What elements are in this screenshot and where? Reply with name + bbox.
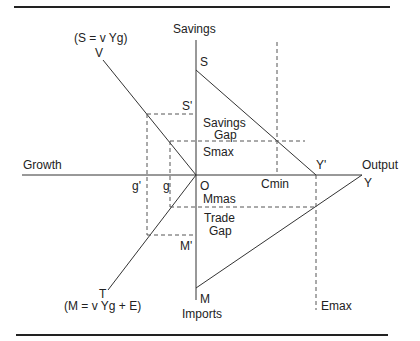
savings-gap-label-line2: Gap xyxy=(214,128,237,142)
point-label-S-prime: S' xyxy=(182,99,192,113)
two-gap-diagram: Savings Imports Growth Output O (S = v Y… xyxy=(0,0,420,341)
origin-label: O xyxy=(200,179,209,193)
trade-gap-label-line2: Gap xyxy=(209,224,232,238)
axis-label-output: Output xyxy=(362,158,399,172)
axis-label-growth: Growth xyxy=(23,158,62,172)
point-label-M-prime: M' xyxy=(180,239,192,253)
import-function-line-T xyxy=(108,175,196,290)
savings-equation: (S = v Yg) xyxy=(74,31,127,45)
trade-gap-label-line1: Trade xyxy=(204,211,235,225)
point-label-Y: Y xyxy=(364,176,372,190)
point-label-Smax: Smax xyxy=(203,145,234,159)
point-label-Emax: Emax xyxy=(321,299,352,313)
axis-label-savings: Savings xyxy=(173,22,216,36)
imports-equation: (M = v Yg + E) xyxy=(64,299,141,313)
point-label-T: T xyxy=(99,287,107,301)
savings-function-line-V xyxy=(103,60,196,175)
point-label-g-prime: g' xyxy=(132,179,141,193)
point-label-S: S xyxy=(200,55,208,69)
point-label-g: g xyxy=(163,179,170,193)
point-label-V: V xyxy=(95,46,103,60)
point-label-Mmas: Mmas xyxy=(203,192,236,206)
point-label-M: M xyxy=(200,292,210,306)
point-label-Cmin: Cmin xyxy=(261,177,289,191)
axis-label-imports: Imports xyxy=(182,307,222,321)
point-label-Y-prime: Y' xyxy=(316,158,326,172)
